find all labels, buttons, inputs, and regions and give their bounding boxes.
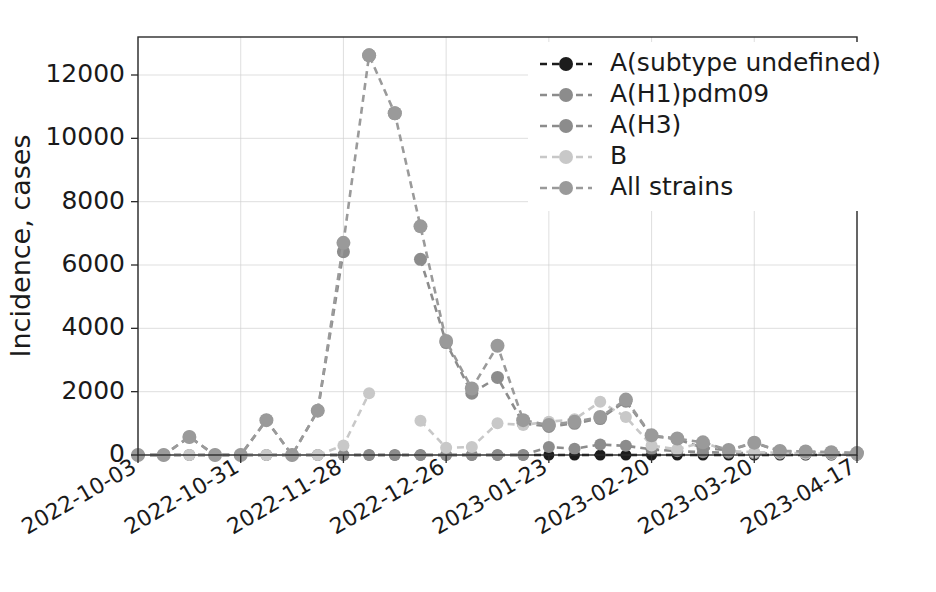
y-tick-label: 2000 — [61, 376, 125, 405]
data-point-marker — [336, 236, 350, 250]
legend-entry-label: B — [610, 141, 627, 170]
legend-marker-sample — [559, 57, 573, 71]
x-tick-label: 2022-10-03 — [17, 454, 140, 540]
x-tick-label: 2023-02-20 — [531, 454, 654, 540]
data-point-marker — [747, 436, 761, 450]
data-point-marker — [440, 442, 452, 454]
data-point-marker — [620, 411, 632, 423]
legend-marker-sample — [559, 88, 573, 102]
x-tick-label: 2023-03-20 — [634, 454, 757, 540]
data-point-marker — [492, 417, 504, 429]
data-point-marker — [620, 440, 632, 452]
data-point-marker — [311, 404, 325, 418]
data-point-marker — [696, 435, 710, 449]
data-point-marker — [543, 441, 555, 453]
x-tick-label: 2022-10-31 — [120, 454, 243, 540]
x-tick-label: 2023-04-17 — [736, 454, 859, 540]
data-point-marker — [670, 432, 684, 446]
outlier-point-marker — [362, 48, 376, 62]
data-point-marker — [491, 339, 505, 353]
y-tick-label: 4000 — [61, 312, 125, 341]
data-point-marker — [337, 440, 349, 452]
y-tick-label: 10000 — [45, 122, 125, 151]
data-point-marker — [259, 413, 273, 427]
x-tick-label: 2022-11-28 — [223, 454, 346, 540]
data-point-marker — [182, 430, 196, 444]
legend-marker-sample — [559, 150, 573, 164]
data-point-marker — [799, 445, 813, 459]
legend-entry-label: A(H1)pdm09 — [610, 79, 769, 108]
data-point-marker — [466, 441, 478, 453]
data-point-marker — [363, 387, 375, 399]
data-point-marker — [413, 219, 427, 233]
data-point-marker — [594, 396, 606, 408]
data-point-marker — [542, 418, 556, 432]
legend-marker-sample — [559, 119, 573, 133]
x-tick-label: 2023-01-23 — [428, 454, 551, 540]
legend-marker-sample — [559, 181, 573, 195]
legend-entry-label: All strains — [610, 172, 733, 201]
data-point-marker — [773, 444, 787, 458]
data-point-marker — [594, 439, 606, 451]
data-point-marker — [439, 334, 453, 348]
data-point-marker — [645, 428, 659, 442]
series-line — [420, 259, 857, 453]
data-point-marker — [465, 382, 479, 396]
data-point-marker — [491, 371, 504, 384]
outlier-point-marker — [388, 106, 402, 120]
incidence-line-chart: 0200040006000800010000120002022-10-03202… — [0, 0, 936, 592]
legend-layer: A(subtype undefined)A(H1)pdm09A(H3)BAll … — [528, 42, 888, 211]
data-point-marker — [414, 415, 426, 427]
x-tick-label: 2022-12-26 — [325, 454, 448, 540]
data-point-marker — [569, 443, 581, 455]
series-line — [138, 393, 369, 455]
chart-figure: 0200040006000800010000120002022-10-03202… — [0, 0, 936, 592]
series-line — [420, 402, 857, 455]
data-point-marker — [516, 413, 530, 427]
y-tick-label: 6000 — [61, 249, 125, 278]
y-axis-title: Incidence, cases — [5, 134, 36, 357]
data-point-marker — [619, 393, 633, 407]
data-point-marker — [414, 253, 427, 266]
data-point-marker — [593, 410, 607, 424]
legend-entry-label: A(subtype undefined) — [610, 48, 881, 77]
legend-entry-label: A(H3) — [610, 110, 681, 139]
y-tick-label: 12000 — [45, 59, 125, 88]
y-tick-label: 8000 — [61, 186, 125, 215]
data-point-marker — [824, 445, 838, 459]
data-point-marker — [568, 415, 582, 429]
